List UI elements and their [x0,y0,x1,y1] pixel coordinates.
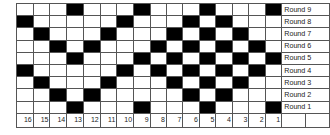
empty-cell [50,64,67,76]
filled-cell [249,40,265,52]
empty-cell [216,101,232,113]
filled-cell [216,40,232,52]
filled-cell [216,16,232,28]
empty-cell [17,101,34,113]
empty-cell [183,4,199,16]
filled-cell [183,16,199,28]
column-number: 13 [67,113,84,127]
round-row: Round 8 [17,16,330,28]
empty-cell [232,64,248,76]
filled-cell [232,28,248,40]
empty-cell [150,89,166,101]
empty-cell [83,52,100,64]
round-label: Round 1 [282,101,330,113]
empty-cell [33,52,50,64]
empty-cell [232,101,248,113]
empty-cell [134,40,150,52]
empty-cell [265,40,281,52]
filled-cell [265,52,281,64]
empty-cell [117,52,134,64]
empty-cell [232,4,248,16]
empty-cell [249,52,265,64]
round-row: Round 3 [17,77,330,89]
empty-cell [100,52,117,64]
filled-cell [232,77,248,89]
empty-cell [117,4,134,16]
empty-cell [100,16,117,28]
empty-cell [17,52,34,64]
empty-cell [167,4,183,16]
empty-cell [249,28,265,40]
column-number: 1 [265,113,281,127]
empty-cell [183,77,199,89]
round-row: Round 7 [17,28,330,40]
filled-cell [199,77,215,89]
empty-cell [100,101,117,113]
round-row: Round 5 [17,52,330,64]
column-number: 10 [117,113,134,127]
empty-cell [83,28,100,40]
filled-cell [134,4,150,16]
empty-cell [117,77,134,89]
round-label: Round 2 [282,89,330,101]
empty-cell [117,89,134,101]
empty-cell [249,16,265,28]
empty-cell [17,4,34,16]
empty-cell [17,40,34,52]
empty-cell [167,64,183,76]
filled-cell [150,64,166,76]
empty-cell [265,64,281,76]
round-row: Round 4 [17,64,330,76]
empty-cell [33,101,50,113]
empty-cell [199,89,215,101]
empty-cell [83,101,100,113]
column-number: 2 [249,113,265,127]
column-number: 9 [134,113,150,127]
round-label: Round 3 [282,77,330,89]
filled-cell [183,89,199,101]
empty-cell [232,40,248,52]
chart-grid-body: Round 9Round 8Round 7Round 6Round 5Round… [17,4,330,128]
empty-cell [33,4,50,16]
empty-cell [50,52,67,64]
filled-cell [249,64,265,76]
empty-cell [167,89,183,101]
empty-cell [100,40,117,52]
empty-cell [265,77,281,89]
empty-cell [50,4,67,16]
column-number: 6 [183,113,199,127]
round-label: Round 7 [282,28,330,40]
empty-cell [232,89,248,101]
column-number: 7 [167,113,183,127]
empty-cell [17,28,34,40]
filled-cell [67,4,84,16]
empty-cell [134,16,150,28]
filled-cell [199,28,215,40]
empty-cell [265,28,281,40]
filled-cell [17,16,34,28]
filled-cell [50,40,67,52]
empty-cell [50,77,67,89]
empty-cell [150,28,166,40]
filled-cell [265,101,281,113]
empty-label-cell [305,113,329,127]
filled-cell [167,28,183,40]
filled-cell [167,77,183,89]
empty-cell [150,77,166,89]
round-label: Round 6 [282,40,330,52]
empty-cell [67,16,84,28]
column-number: 15 [33,113,50,127]
filled-cell [100,77,117,89]
round-label: Round 5 [282,52,330,64]
column-number-row: 16151413121110987654321 [17,113,330,127]
empty-cell [199,40,215,52]
filled-cell [83,40,100,52]
empty-cell [100,4,117,16]
empty-cell [50,28,67,40]
empty-cell [33,16,50,28]
empty-cell [167,40,183,52]
filled-cell [183,64,199,76]
empty-cell [150,101,166,113]
empty-cell [232,16,248,28]
empty-cell [167,16,183,28]
